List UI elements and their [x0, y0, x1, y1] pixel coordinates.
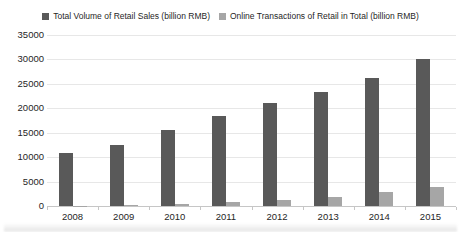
gridline-35000	[47, 35, 456, 36]
bar-online-2010	[175, 204, 189, 206]
y-axis-label-5000: 5000	[0, 177, 44, 187]
bar-total-2015	[416, 59, 430, 206]
gridline-5000	[47, 182, 456, 183]
bar-online-2015	[430, 187, 444, 206]
x-axis-tick-6	[354, 207, 355, 210]
x-axis-tick-7	[405, 207, 406, 210]
x-axis-label-2011: 2011	[204, 211, 248, 222]
plot-area: 0500010000150002000025000300003500020082…	[0, 0, 461, 232]
x-axis-label-2008: 2008	[51, 211, 95, 222]
x-axis-label-2010: 2010	[153, 211, 197, 222]
bar-online-2011	[226, 202, 240, 206]
y-axis-label-10000: 10000	[0, 152, 44, 162]
gridline-10000	[47, 157, 456, 158]
y-axis-label-30000: 30000	[0, 54, 44, 64]
y-axis-label-25000: 25000	[0, 79, 44, 89]
gridline-15000	[47, 133, 456, 134]
y-axis-label-35000: 35000	[0, 30, 44, 40]
x-axis-tick-8	[456, 207, 457, 210]
bar-online-2013	[328, 197, 342, 206]
bar-total-2014	[365, 78, 379, 206]
bar-total-2013	[314, 92, 328, 206]
gridline-20000	[47, 108, 456, 109]
x-axis-label-2009: 2009	[102, 211, 146, 222]
x-axis-tick-1	[98, 207, 99, 210]
bar-total-2012	[263, 103, 277, 206]
bar-total-2010	[161, 130, 175, 206]
x-axis-tick-2	[149, 207, 150, 210]
x-axis-label-2014: 2014	[357, 211, 401, 222]
gridline-30000	[47, 59, 456, 60]
gridline-25000	[47, 84, 456, 85]
x-axis-tick-5	[303, 207, 304, 210]
bar-total-2011	[212, 116, 226, 206]
bar-online-2012	[277, 200, 291, 206]
x-axis-label-2015: 2015	[408, 211, 452, 222]
bar-online-2009	[124, 205, 138, 206]
bar-total-2008	[59, 153, 73, 206]
y-axis-label-15000: 15000	[0, 128, 44, 138]
x-axis-tick-3	[200, 207, 201, 210]
x-axis-label-2012: 2012	[255, 211, 299, 222]
x-axis-label-2013: 2013	[306, 211, 350, 222]
bar-online-2014	[379, 192, 393, 206]
x-axis-tick-4	[252, 207, 253, 210]
retail-sales-bar-chart: Total Volume of Retail Sales (billion RM…	[0, 0, 461, 232]
y-axis-label-20000: 20000	[0, 103, 44, 113]
bar-total-2009	[110, 145, 124, 206]
y-axis-label-0: 0	[0, 201, 44, 211]
x-axis-tick-0	[47, 207, 48, 210]
